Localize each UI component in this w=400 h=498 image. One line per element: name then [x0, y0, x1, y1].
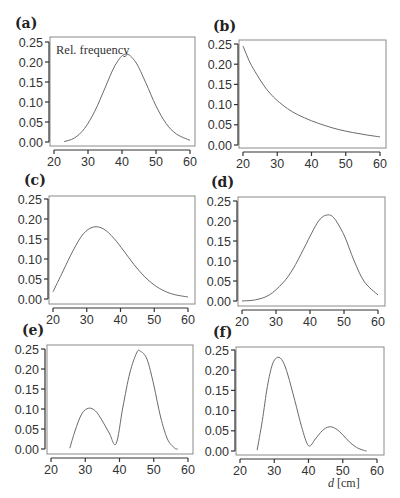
y-tick-label: 0.10 — [208, 98, 232, 112]
y-tick-label: 0.15 — [205, 384, 229, 398]
y-tick-label: 0.10 — [15, 403, 39, 417]
x-tick-label: 40 — [113, 463, 127, 477]
x-tick-label: 20 — [46, 313, 60, 327]
y-tick-label: 0.05 — [15, 423, 39, 437]
x-tick-label: 50 — [147, 463, 161, 477]
y-tick-label: 0.10 — [207, 255, 231, 269]
x-tick-label: 40 — [303, 315, 317, 329]
density-curve — [243, 46, 380, 137]
plot-frame — [47, 345, 193, 454]
panel-b: (b)0.000.050.100.150.200.252030405060 — [208, 18, 387, 171]
y-annotation: Rel. frequency — [56, 43, 130, 57]
y-tick-label: 0.20 — [15, 363, 39, 377]
y-tick-label: 0.15 — [19, 76, 43, 90]
y-tick-label: 0.05 — [205, 424, 229, 438]
x-tick-label: 30 — [78, 463, 92, 477]
y-tick-label: 0.00 — [18, 293, 42, 307]
density-curve — [70, 350, 178, 449]
x-tick-label: 40 — [115, 155, 129, 169]
panel-label: (c) — [24, 172, 46, 188]
x-tick-label: 30 — [269, 315, 283, 329]
density-curve — [242, 215, 378, 301]
y-tick-label: 0.05 — [207, 275, 231, 289]
x-tick-label: 60 — [183, 155, 197, 169]
y-tick-label: 0.20 — [19, 56, 43, 70]
y-tick-label: 0.00 — [19, 136, 43, 150]
plot-frame — [238, 197, 385, 306]
x-tick-label: 60 — [370, 464, 384, 478]
y-tick-label: 0.15 — [208, 78, 232, 92]
y-tick-label: 0.15 — [15, 383, 39, 397]
x-tick-label: 20 — [233, 464, 247, 478]
y-tick-label: 0.15 — [18, 233, 42, 247]
panel-a: (a)0.000.050.100.150.200.252030405060Rel… — [15, 15, 197, 169]
panel-c: (c)0.000.050.100.150.200.252030405060 — [18, 172, 195, 327]
x-tick-label: 20 — [235, 315, 249, 329]
panel-e: (e)0.000.050.100.150.200.252030405060 — [15, 322, 195, 477]
x-tick-label: 40 — [302, 464, 316, 478]
y-tick-label: 0.10 — [205, 404, 229, 418]
plot-frame — [236, 347, 384, 455]
y-tick-label: 0.25 — [205, 344, 229, 358]
x-tick-label: 20 — [236, 157, 250, 171]
x-tick-label: 30 — [267, 464, 281, 478]
x-tick-label: 20 — [44, 463, 58, 477]
x-tick-label: 30 — [80, 313, 94, 327]
panel-label: (a) — [15, 15, 37, 31]
y-tick-label: 0.20 — [205, 364, 229, 378]
plot-frame — [49, 196, 195, 304]
y-tick-label: 0.15 — [207, 235, 231, 249]
x-tick-label: 20 — [47, 155, 61, 169]
y-tick-label: 0.10 — [18, 253, 42, 267]
x-tick-label: 50 — [147, 313, 161, 327]
y-tick-label: 0.20 — [208, 58, 232, 72]
y-tick-label: 0.00 — [207, 295, 231, 309]
y-tick-label: 0.05 — [19, 116, 43, 130]
x-tick-label: 50 — [149, 155, 163, 169]
x-tick-label: 30 — [81, 155, 95, 169]
plot-frame — [239, 40, 386, 148]
density-curve — [64, 54, 190, 142]
y-tick-label: 0.10 — [19, 96, 43, 110]
y-tick-label: 0.05 — [18, 273, 42, 287]
panel-label: (d) — [211, 174, 234, 190]
y-tick-label: 0.00 — [205, 445, 229, 459]
x-tick-label: 50 — [339, 157, 353, 171]
figure: (a)0.000.050.100.150.200.252030405060Rel… — [0, 0, 400, 498]
x-axis-unit: [cm] — [334, 476, 360, 490]
panel-f: (f)0.000.050.100.150.200.252030405060 — [205, 324, 384, 478]
y-tick-label: 0.05 — [208, 118, 232, 132]
y-tick-label: 0.20 — [18, 213, 42, 227]
y-tick-label: 0.25 — [208, 38, 232, 52]
x-axis-label: d [cm] — [328, 476, 360, 490]
x-tick-label: 40 — [114, 313, 128, 327]
y-tick-label: 0.25 — [18, 193, 42, 207]
y-tick-label: 0.25 — [15, 343, 39, 357]
panel-label: (b) — [213, 18, 236, 34]
density-curve — [257, 357, 367, 451]
x-tick-label: 60 — [371, 315, 385, 329]
x-tick-label: 40 — [305, 157, 319, 171]
y-tick-label: 0.00 — [15, 443, 39, 457]
panel-label: (f) — [213, 324, 232, 340]
x-tick-label: 50 — [337, 315, 351, 329]
x-tick-label: 60 — [181, 463, 195, 477]
y-tick-label: 0.00 — [208, 139, 232, 153]
x-tick-label: 60 — [373, 157, 387, 171]
density-curve — [53, 227, 188, 297]
panel-label: (e) — [22, 322, 44, 338]
y-tick-label: 0.20 — [207, 215, 231, 229]
x-tick-label: 30 — [270, 157, 284, 171]
y-tick-label: 0.25 — [207, 195, 231, 209]
panel-d: (d)0.000.050.100.150.200.252030405060 — [207, 174, 385, 329]
y-tick-label: 0.25 — [19, 36, 43, 50]
x-tick-label: 60 — [181, 313, 195, 327]
